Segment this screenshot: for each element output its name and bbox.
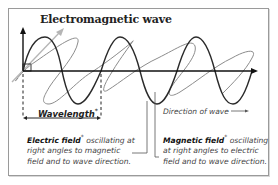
- wavelength-label: Wavelength*: [38, 107, 98, 119]
- electric-field-caption: Electric field* oscillating at right ang…: [27, 132, 139, 167]
- magnetic-marker: *: [224, 133, 227, 140]
- electric-marker: *: [81, 133, 84, 140]
- wavelength-marker: *: [95, 107, 98, 114]
- direction-label: Direction of wave: [163, 107, 229, 116]
- wavelength-text: Wavelength: [38, 109, 95, 119]
- electric-field-term: Electric field: [27, 136, 81, 145]
- magnetic-axis: [12, 28, 64, 82]
- magnetic-pointer: [155, 92, 159, 157]
- magnetic-field-term: Magnetic field: [163, 136, 224, 145]
- diagram-title: Electromagnetic wave: [40, 13, 172, 26]
- direction-arrow: [231, 110, 249, 113]
- magnetic-field-caption: Magnetic field* oscillating at right ang…: [163, 132, 271, 167]
